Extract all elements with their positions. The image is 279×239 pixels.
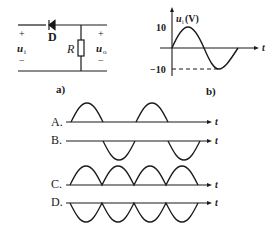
option-a[interactable]: A. t: [51, 103, 219, 129]
caption-b: b): [206, 85, 216, 98]
resistor-label: R: [66, 42, 75, 56]
y-axis-unit: (V): [185, 13, 199, 25]
option-b[interactable]: B. t: [51, 133, 219, 160]
output-plus: +: [98, 28, 104, 39]
output-minus: −: [98, 55, 104, 66]
input-plus: +: [19, 28, 25, 39]
option-c-axis: t: [215, 179, 219, 190]
option-a-label: A.: [51, 115, 63, 129]
option-d-label: D.: [51, 195, 63, 209]
y-max-label: 10: [156, 22, 166, 33]
option-a-axis: t: [215, 116, 219, 127]
option-d-axis: t: [215, 197, 219, 208]
x-axis-label: t: [262, 42, 266, 53]
input-minus: −: [19, 55, 25, 66]
resistor-icon: [78, 40, 84, 56]
diode-label: D: [48, 30, 57, 44]
option-c[interactable]: C. t: [51, 166, 219, 191]
circuit-a: [18, 25, 107, 71]
diode-icon: [49, 20, 55, 30]
option-c-label: C.: [51, 177, 62, 191]
option-d[interactable]: D. t: [51, 195, 219, 222]
caption-a: a): [56, 83, 66, 96]
option-b-axis: t: [215, 135, 219, 146]
diagram-canvas: D R + u i − + u o − a) 10 −10 u i (V) t …: [0, 0, 279, 239]
output-voltage-label: u: [96, 42, 102, 54]
input-voltage-label: u: [17, 42, 23, 54]
option-b-label: B.: [51, 133, 62, 147]
y-min-label: −10: [150, 64, 166, 75]
graph-b: [160, 7, 259, 76]
y-axis-label-sub: i: [182, 19, 184, 25]
